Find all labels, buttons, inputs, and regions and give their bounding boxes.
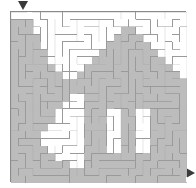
entry-arrow — [18, 1, 28, 10]
maze-puzzle — [0, 0, 196, 188]
maze-walls-canvas — [11, 12, 187, 183]
exit-arrow — [186, 168, 195, 178]
maze-grid — [10, 11, 186, 182]
